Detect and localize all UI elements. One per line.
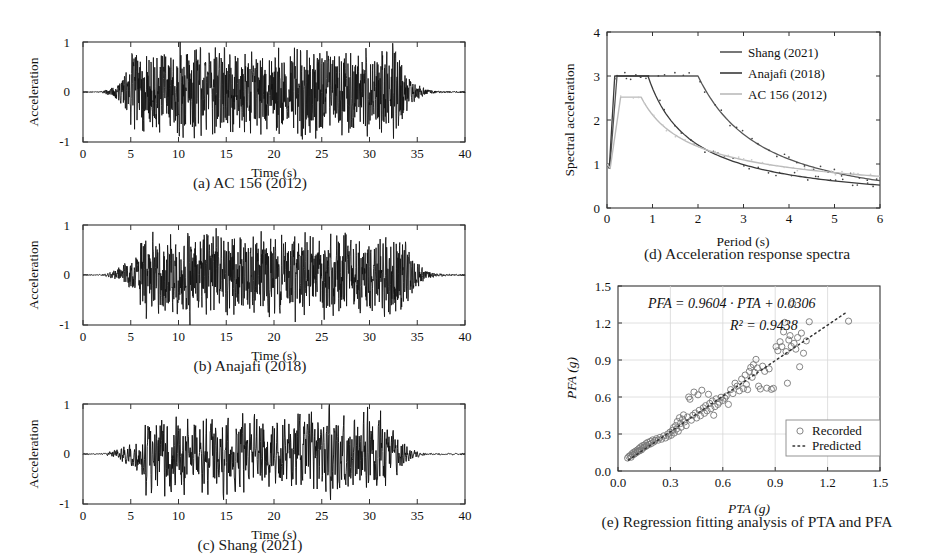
panel-d-legend-label-2: AC 156 (2012) (748, 87, 827, 102)
panel-e-ylabel: PFA (g) (564, 357, 579, 400)
panel-e-xtick-label: 0.6 (715, 475, 732, 490)
panel-d-sample-dot (620, 95, 622, 97)
panel-d-sample-dot (841, 175, 843, 177)
panel-d-sample-dot (877, 176, 879, 178)
th-xtick-label: 5 (128, 146, 135, 161)
panel-d-sample-dot (729, 125, 731, 127)
panel-d-sample-dot (680, 132, 682, 134)
th-xtick-label: 5 (128, 508, 135, 523)
panel-d-sample-dot (804, 167, 806, 169)
panel-d-sample-dot (857, 173, 859, 175)
panel-c-ytick-1: 1 (64, 397, 71, 412)
panel-d-sample-dot (807, 179, 809, 181)
panel-d-xtick-label: 2 (695, 211, 702, 226)
panel-d-legend-label-1: Anajafi (2018) (748, 66, 825, 81)
panel-d-sample-dot (626, 78, 628, 80)
panel-d-ylabel: Spectral acceleration (562, 63, 577, 176)
panel-d-ytick-label: 4 (594, 25, 601, 40)
panel-d-sample-dot (769, 164, 771, 166)
panel-e-xtick-label: 0.3 (662, 475, 678, 490)
panel-d-legend-label-0: Shang (2021) (748, 45, 818, 60)
panel-d-sample-dot (675, 136, 677, 138)
panel-a-ylabel: Acceleration (26, 57, 41, 126)
panel-d-sample-dot (788, 156, 790, 158)
th-xtick-label: 25 (315, 146, 328, 161)
panel-d-sample-dot (776, 156, 778, 158)
panel-d-sample-dot (624, 72, 626, 74)
th-xtick-label: 40 (459, 329, 472, 344)
panel-d-response-spectra: 012345601234 Shang (2021)Anajafi (2018)A… (560, 14, 934, 264)
th-xtick-label: 15 (220, 329, 233, 344)
panel-e-regression: 0.00.30.60.91.21.50.00.30.60.91.21.5 PFA… (560, 278, 934, 548)
panel-d-sample-dot (748, 168, 750, 170)
panel-d-sample-dot (674, 125, 676, 127)
panel-d-sample-dot (720, 109, 722, 111)
figure-root: 0510152025303540 1 0 -1 Acceleration Tim… (0, 0, 934, 555)
panel-d-sample-dot (815, 176, 817, 178)
panel-d-sample-dot (830, 179, 832, 181)
panel-d-sample-dot (664, 74, 666, 76)
th-xtick-label: 20 (268, 329, 281, 344)
panel-d-sample-dot (757, 143, 759, 145)
panel-d-sample-dot (662, 124, 664, 126)
panel-d-sample-dot (663, 109, 665, 111)
panel-d-ytick-label: 0 (594, 201, 601, 216)
panel-d-sample-dot (688, 72, 690, 74)
panel-b-ylabel: Acceleration (26, 240, 41, 309)
panel-d-sample-dot (638, 97, 640, 99)
panel-e-xtick-label: 1.2 (819, 475, 835, 490)
th-xtick-label: 10 (172, 329, 185, 344)
panel-d-sample-dot (714, 151, 716, 153)
panel-e-ytick-label: 0.6 (595, 390, 612, 405)
panel-e-ytick-label: 0.0 (595, 464, 611, 479)
panel-d-sample-dot (751, 159, 753, 161)
th-xtick-label: 30 (363, 146, 376, 161)
panel-d-sample-dot (797, 170, 799, 172)
th-xtick-label: 5 (128, 329, 135, 344)
th-xtick-label: 10 (172, 508, 185, 523)
panel-d-sample-dot (698, 146, 700, 148)
panel-a-caption: (a) AC 156 (2012) (0, 174, 500, 192)
th-xtick-label: 15 (220, 146, 233, 161)
panel-d-sample-dot (757, 166, 759, 168)
panel-c-ytick-neg1: -1 (59, 496, 70, 511)
panel-d-sample-dot (841, 171, 843, 173)
panel-d-svg: 012345601234 Shang (2021)Anajafi (2018)A… (560, 14, 934, 264)
panel-d-sample-dot (684, 139, 686, 141)
panel-d-sample-dot (870, 173, 872, 175)
panel-d-sample-dot (853, 172, 855, 174)
panel-e-xtick-label: 0.9 (767, 475, 783, 490)
panel-d-sample-dot (867, 182, 869, 184)
panel-b-ytick-0: 0 (64, 267, 71, 282)
panel-e-legend-label-recorded: Recorded (812, 423, 862, 438)
panel-d-sample-dot (852, 184, 854, 186)
th-xtick-label: 30 (363, 508, 376, 523)
panel-d-sample-dot (645, 77, 647, 79)
panel-a-ytick-neg1: -1 (59, 134, 70, 149)
panel-e-equation-annotation: PFA = 0.9604 · PTA + 0.0306 (647, 296, 816, 311)
panel-d-sample-dot (820, 165, 822, 167)
th-xtick-label: 0 (80, 146, 87, 161)
panel-d-sample-dot (743, 165, 745, 167)
panel-d-sample-dot (630, 78, 632, 80)
panel-d-sample-dot (704, 151, 706, 153)
panel-c-ylabel: Acceleration (26, 419, 41, 488)
panel-d-sample-dot (776, 165, 778, 167)
panel-d-sample-dot (704, 91, 706, 93)
panel-d-sample-dot (784, 153, 786, 155)
panel-d-xtick-label: 0 (604, 211, 611, 226)
panel-a-ytick-0: 0 (64, 84, 71, 99)
th-xtick-label: 35 (411, 146, 424, 161)
panel-e-legend-label-predicted: Predicted (812, 438, 862, 453)
panel-e-ytick-label: 1.5 (595, 279, 611, 294)
panel-c-timehistory: 0510152025303540 1 0 -1 Acceleration Tim… (0, 376, 500, 551)
panel-e-legend: RecordedPredicted (786, 420, 880, 456)
panel-d-sample-dot (699, 81, 701, 83)
panel-d-sample-dot (723, 155, 725, 157)
panel-b-timehistory: 0510152025303540 1 0 -1 Acceleration Tim… (0, 197, 500, 372)
panel-d-sample-dot (817, 176, 819, 178)
th-xtick-label: 30 (363, 329, 376, 344)
th-xtick-label: 0 (80, 508, 87, 523)
panel-d-sample-dot (738, 156, 740, 158)
panel-d-sample-dot (834, 169, 836, 171)
